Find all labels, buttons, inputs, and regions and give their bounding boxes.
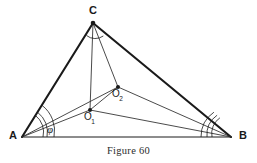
side-ac	[22, 23, 93, 137]
interior-segments	[22, 23, 231, 137]
vertex-label-a: A	[9, 130, 17, 141]
triangle-outline	[22, 23, 231, 137]
angle-label-phi: φ	[47, 124, 53, 135]
point-label-o1: O1	[84, 112, 95, 125]
side-cb	[93, 23, 231, 137]
dot-c	[91, 21, 96, 26]
figure-caption: Figure 60	[0, 145, 257, 156]
angle-arc-at-c	[87, 36, 104, 39]
vertex-label-b: B	[239, 130, 247, 141]
arc-c-inner	[87, 36, 104, 39]
point-label-o2-subscript: 2	[119, 95, 123, 102]
arc-a-inner	[36, 116, 44, 138]
vertex-label-c: C	[89, 5, 97, 16]
point-label-o2: O2	[112, 89, 123, 102]
geometry-drawing	[0, 0, 257, 163]
segment-c-o1	[90, 23, 93, 110]
segment-a-o1	[22, 110, 90, 137]
figure-60-diagram: A B C O1 O2 φ Figure 60	[0, 0, 257, 163]
segment-b-o2	[118, 87, 231, 137]
point-label-o1-subscript: 1	[91, 118, 95, 125]
